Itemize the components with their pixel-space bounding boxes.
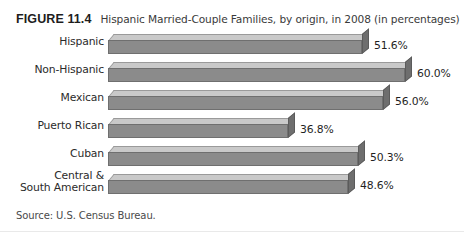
chart-bar-front-face	[108, 180, 348, 194]
chart-bar	[108, 146, 358, 166]
chart-bar-end-face	[405, 56, 412, 82]
chart-bar-row: Mexican56.0%	[0, 86, 464, 114]
chart-bar-end-face	[348, 168, 355, 194]
bar-value-label: 50.3%	[370, 151, 404, 164]
bar-category-label: Mexican	[0, 92, 104, 104]
figure-title: Hispanic Married-Couple Families, by ori…	[100, 13, 459, 25]
bar-value-label: 60.0%	[417, 67, 451, 80]
chart-bar	[108, 90, 383, 110]
bar-category-label: Central &South American	[0, 170, 104, 195]
bar-category-label-line1: Non-Hispanic	[0, 64, 104, 76]
bar-value-label: 48.6%	[360, 179, 394, 192]
chart-bar-row: Non-Hispanic60.0%	[0, 58, 464, 86]
figure-source: Source: U.S. Census Bureau.	[16, 210, 156, 221]
bar-category-label: Puerto Rican	[0, 120, 104, 132]
bar-category-label-line2: South American	[0, 182, 104, 194]
chart-plot-area: Hispanic51.6%Non-Hispanic60.0%Mexican56.…	[0, 30, 464, 205]
chart-bar-end-face	[288, 112, 295, 138]
chart-bar-row: Puerto Rican36.8%	[0, 114, 464, 142]
bar-value-label: 51.6%	[374, 39, 408, 52]
chart-bar	[108, 118, 288, 138]
chart-bar-front-face	[108, 40, 362, 54]
bar-value-label: 36.8%	[300, 123, 334, 136]
bar-category-label-line1: Mexican	[0, 92, 104, 104]
chart-bar-row: Cuban50.3%	[0, 142, 464, 170]
bottom-divider	[0, 231, 464, 232]
chart-bar-front-face	[108, 152, 358, 166]
figure-caption: FIGURE 11.4Hispanic Married-Couple Famil…	[16, 8, 456, 24]
chart-bar-row: Hispanic51.6%	[0, 30, 464, 58]
bar-category-label-line1: Cuban	[0, 148, 104, 160]
bar-category-label: Cuban	[0, 148, 104, 160]
bar-value-label: 56.0%	[395, 95, 429, 108]
chart-bar-row: Central &South American48.6%	[0, 170, 464, 198]
chart-bar-front-face	[108, 68, 405, 82]
chart-bar	[108, 62, 405, 82]
bar-category-label-line1: Puerto Rican	[0, 120, 104, 132]
chart-bar	[108, 34, 362, 54]
chart-bar	[108, 174, 348, 194]
chart-bar-front-face	[108, 96, 383, 110]
figure-number: FIGURE 11.4	[16, 12, 91, 26]
figure-container: FIGURE 11.4Hispanic Married-Couple Famil…	[0, 0, 464, 237]
bar-category-label: Non-Hispanic	[0, 64, 104, 76]
bar-category-label-line1: Hispanic	[0, 36, 104, 48]
chart-bar-end-face	[362, 28, 369, 54]
bar-category-label: Hispanic	[0, 36, 104, 48]
chart-bar-end-face	[358, 140, 365, 166]
chart-bar-front-face	[108, 124, 288, 138]
chart-bar-end-face	[383, 84, 390, 110]
